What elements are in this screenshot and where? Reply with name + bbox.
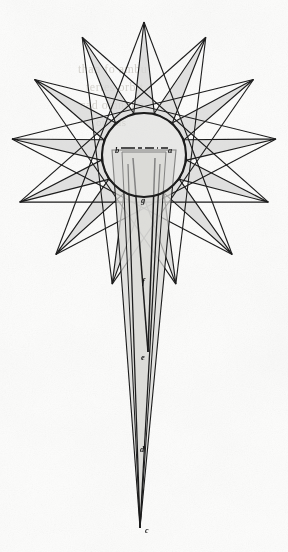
label-d: d — [140, 445, 144, 454]
comet-tail — [112, 150, 176, 528]
label-c: c — [145, 527, 149, 535]
star-spike — [134, 22, 155, 113]
star-spike — [12, 139, 104, 160]
label-b: b — [115, 146, 119, 155]
label-f: f — [142, 277, 145, 286]
star-spike — [184, 139, 276, 160]
label-e: e — [141, 353, 145, 362]
orbit-circle — [102, 113, 186, 197]
figure-plate: than fo ambu tertes orbit cad omnium ori… — [0, 0, 288, 552]
label-a: a — [168, 146, 172, 155]
label-g: g — [141, 196, 145, 205]
